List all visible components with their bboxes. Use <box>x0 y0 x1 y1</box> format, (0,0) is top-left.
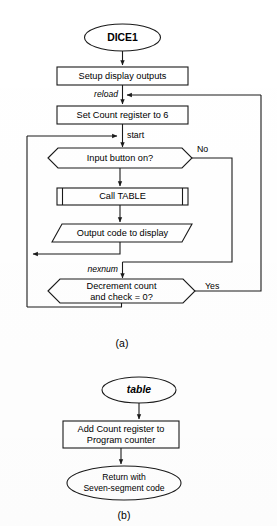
figure-canvas: DICE1 Setup display outputs reload Set C… <box>0 0 277 526</box>
terminator-return-label-2: Seven-segment code <box>83 483 164 493</box>
connector-output-to-left-rail <box>33 242 120 254</box>
label-reload: reload <box>94 89 118 99</box>
label-start: start <box>127 130 145 140</box>
connector-decrement-false-to-left-rail <box>27 303 122 307</box>
terminator-table-label: table <box>127 384 151 395</box>
process-setup-display-outputs-label: Setup display outputs <box>79 71 167 81</box>
decision-input-button-on-label: Input button on? <box>87 153 153 163</box>
caption-a: (a) <box>116 337 129 349</box>
decision-decrement-branch-yes-label: Yes <box>205 281 220 291</box>
subroutine-call-table-label: Call TABLE <box>99 191 146 201</box>
process-set-count-register-label: Set Count register to 6 <box>77 110 169 120</box>
decision-decrement-count-label-1: Decrement count <box>87 281 157 291</box>
decision-input-branch-no-label: No <box>197 144 208 154</box>
caption-b: (b) <box>118 509 131 521</box>
decision-decrement-count-label-2: and check = 0? <box>90 292 153 302</box>
process-add-count-register-label-2: Program counter <box>87 435 155 445</box>
process-add-count-register-label-1: Add Count register to <box>78 424 165 434</box>
connector-branch-no <box>123 158 233 262</box>
terminator-dice1-label: DICE1 <box>107 32 138 43</box>
label-nexnum: nexnum <box>87 264 118 274</box>
io-output-code-to-display-label: Output code to display <box>77 228 169 238</box>
terminator-return-label-1: Return with <box>102 472 146 482</box>
flowchart-svg: DICE1 Setup display outputs reload Set C… <box>0 0 277 526</box>
